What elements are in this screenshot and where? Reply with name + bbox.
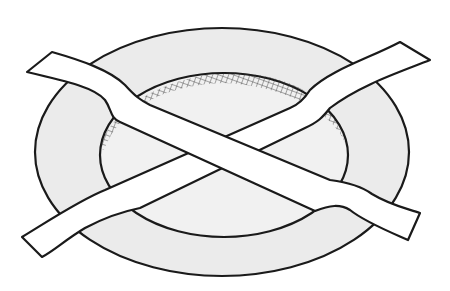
illustration [0, 0, 450, 291]
pan-strips-drawing [0, 0, 450, 291]
